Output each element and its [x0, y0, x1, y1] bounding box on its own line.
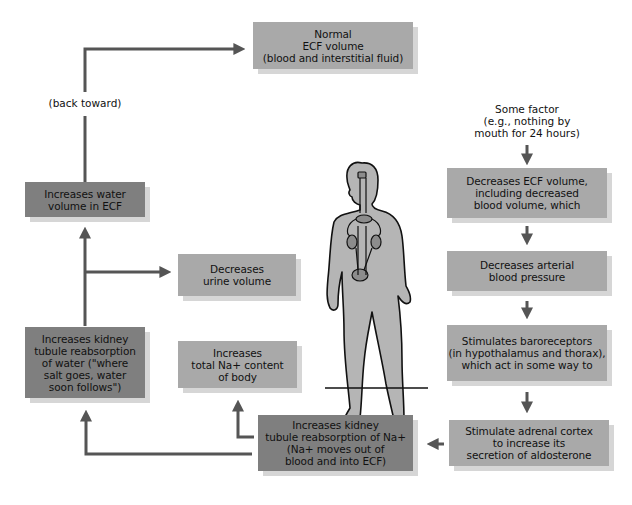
box-line: Decreases arterial: [480, 259, 574, 271]
box-line: of water ("where: [42, 357, 128, 369]
box-stimulate-adrenal-cortex: Stimulate adrenal cortex to increase its…: [449, 420, 609, 466]
box-line: Stimulate adrenal cortex: [465, 425, 593, 437]
box-line: total Na+ content: [191, 359, 283, 371]
box-line: blood volume, which: [474, 199, 581, 211]
box-line: Increases kidney: [42, 333, 129, 345]
box-kidney-na-reabsorption: Increases kidney tubule reabsorption of …: [258, 415, 413, 471]
box-line: Increases: [213, 347, 262, 359]
box-line: blood pressure: [489, 271, 565, 283]
box-line: Decreases ECF volume,: [466, 175, 588, 187]
box-line: which act in some way to: [461, 359, 592, 371]
box-line: blood and into ECF): [285, 455, 386, 467]
box-total-na-content: Increases total Na+ content of body: [178, 341, 297, 388]
box-line: soon follows"): [49, 381, 121, 393]
box-decreases-ecf-volume: Decreases ECF volume, including decrease…: [447, 168, 607, 218]
box-normal-ecf-volume: Normal ECF volume (blood and interstitia…: [253, 22, 413, 69]
box-line: to increase its: [493, 437, 565, 449]
box-line: tubule reabsorption of Na+: [265, 431, 406, 443]
box-line: Decreases: [210, 263, 264, 275]
box-line: of body: [218, 371, 257, 383]
box-line: (Na+ moves out of: [287, 443, 385, 455]
box-decreases-arterial-bp: Decreases arterial blood pressure: [447, 251, 607, 291]
box-decreases-urine-volume: Decreases urine volume: [178, 254, 296, 296]
box-kidney-water-reabsorption: Increases kidney tubule reabsorption of …: [25, 327, 145, 398]
label-text: (back toward): [40, 97, 130, 109]
box-line: volume in ECF: [48, 200, 122, 212]
box-stimulates-baroreceptors: Stimulates baroreceptors (in hypothalamu…: [447, 325, 607, 381]
box-line: salt goes, water: [44, 369, 126, 381]
box-line: (blood and interstitial fluid): [263, 52, 403, 64]
label-some-factor: Some factor (e.g., nothing by mouth for …: [457, 103, 597, 139]
label-text: mouth for 24 hours): [457, 127, 597, 139]
box-line: urine volume: [203, 275, 271, 287]
box-line: Increases water: [44, 188, 126, 200]
box-line: ECF volume: [302, 40, 363, 52]
box-increases-water-volume: Increases water volume in ECF: [25, 182, 145, 217]
box-line: secretion of aldosterone: [467, 449, 592, 461]
label-back-toward: (back toward): [40, 97, 130, 109]
box-line: Increases kidney: [292, 419, 379, 431]
box-line: including decreased: [475, 187, 579, 199]
box-line: (in hypothalamus and thorax),: [449, 347, 606, 359]
label-text: (e.g., nothing by: [457, 115, 597, 127]
box-line: tubule reabsorption: [34, 345, 136, 357]
label-text: Some factor: [457, 103, 597, 115]
box-line: Normal: [314, 28, 351, 40]
box-line: Stimulates baroreceptors: [462, 335, 592, 347]
